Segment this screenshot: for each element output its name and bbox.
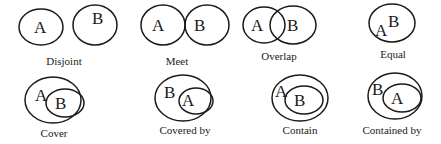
caption-covered-by: Covered by	[159, 124, 211, 136]
label-a: A	[375, 21, 388, 40]
relation-meet: A B Meet	[141, 5, 229, 67]
label-a: A	[35, 86, 48, 105]
relation-disjoint: A B Disjoint	[19, 5, 117, 67]
caption-contained-by: Contained by	[363, 124, 422, 136]
label-b: B	[55, 94, 66, 113]
relation-contain: A B Contain	[272, 75, 328, 136]
caption-overlap: Overlap	[261, 50, 297, 62]
label-b: B	[92, 9, 103, 28]
label-b: B	[372, 80, 383, 99]
label-a: A	[152, 16, 165, 35]
relation-cover: A B Cover	[25, 77, 84, 139]
label-b: B	[194, 16, 205, 35]
region-a-ellipse	[243, 7, 285, 43]
label-a: A	[251, 16, 264, 35]
label-b: B	[294, 91, 305, 110]
caption-disjoint: Disjoint	[46, 55, 81, 67]
label-b: B	[388, 12, 399, 31]
label-b: B	[164, 83, 175, 102]
relations-diagram: A B Disjoint A B Meet A B Overlap A B Eq…	[0, 0, 441, 144]
label-a: A	[34, 18, 47, 37]
caption-meet: Meet	[166, 55, 189, 67]
label-a: A	[275, 82, 288, 101]
relation-overlap: A B Overlap	[243, 6, 316, 62]
caption-cover: Cover	[41, 127, 68, 139]
label-a: A	[391, 89, 404, 108]
label-b: B	[287, 16, 298, 35]
relation-contained-by: B A Contained by	[363, 73, 422, 136]
caption-contain: Contain	[283, 124, 318, 136]
relation-covered-by: B A Covered by	[155, 75, 213, 136]
relation-equal: A B Equal	[369, 4, 415, 60]
label-a: A	[182, 91, 195, 110]
region-b-ellipse	[185, 5, 229, 45]
caption-equal: Equal	[380, 48, 406, 60]
